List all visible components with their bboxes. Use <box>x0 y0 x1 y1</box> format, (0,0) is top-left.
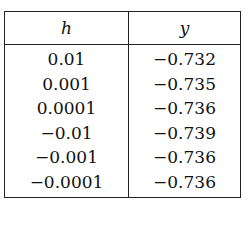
table-row: −0.0001 −0.736 <box>5 170 241 198</box>
table-row: 0.001 −0.735 <box>5 72 241 97</box>
cell-y: −0.736 <box>128 96 240 121</box>
cell-h: −0.01 <box>5 121 129 146</box>
cell-h: −0.0001 <box>5 170 129 198</box>
cell-y: −0.739 <box>128 121 240 146</box>
header-h: h <box>5 12 129 45</box>
table-row: 0.01 −0.732 <box>5 45 241 72</box>
table-row: −0.001 −0.736 <box>5 145 241 170</box>
cell-h: 0.01 <box>5 45 129 72</box>
cell-y: −0.732 <box>128 45 240 72</box>
cell-y: −0.736 <box>128 145 240 170</box>
table-row: −0.01 −0.739 <box>5 121 241 146</box>
cell-h: 0.001 <box>5 72 129 97</box>
cell-y: −0.735 <box>128 72 240 97</box>
header-y: y <box>128 12 240 45</box>
values-table: h y 0.01 −0.732 0.001 −0.735 0.0001 −0.7… <box>4 11 241 198</box>
cell-h: 0.0001 <box>5 96 129 121</box>
cell-y: −0.736 <box>128 170 240 198</box>
table-row: 0.0001 −0.736 <box>5 96 241 121</box>
cell-h: −0.001 <box>5 145 129 170</box>
header-row: h y <box>5 12 241 45</box>
